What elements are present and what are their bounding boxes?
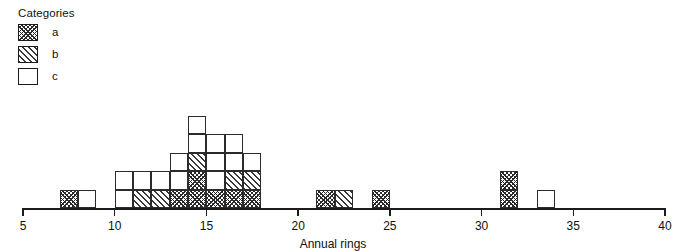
bar-cell-a xyxy=(188,190,206,209)
bar-cell-a xyxy=(206,190,224,209)
x-tick-label-5: 5 xyxy=(20,220,27,233)
x-tick-label-40: 40 xyxy=(658,220,671,233)
x-tick-25 xyxy=(389,208,390,216)
bar-cell-c xyxy=(115,171,133,190)
bar-cell-c xyxy=(225,153,243,172)
x-tick-10 xyxy=(114,208,115,216)
bar-cell-b xyxy=(225,171,243,190)
bar-cell-c xyxy=(188,116,206,135)
bar-cell-c xyxy=(170,171,188,190)
x-tick-label-30: 30 xyxy=(475,220,488,233)
plot-area: 510152025303540 Annual rings xyxy=(0,0,689,251)
bar-cell-c xyxy=(225,134,243,153)
bar-cell-a xyxy=(500,171,518,190)
bar-cell-a xyxy=(500,190,518,209)
x-tick-35 xyxy=(573,208,574,216)
bar-cell-b xyxy=(335,190,353,209)
bar-cell-a xyxy=(170,190,188,209)
bar-cell-c xyxy=(206,171,224,190)
bar-cell-a xyxy=(60,190,78,209)
bar-cell-b xyxy=(151,190,169,209)
x-tick-label-15: 15 xyxy=(200,220,213,233)
x-axis-label: Annual rings xyxy=(300,237,367,251)
bar-cell-c xyxy=(170,153,188,172)
x-tick-15 xyxy=(206,208,207,216)
x-tick-5 xyxy=(22,208,23,216)
bar-cell-b xyxy=(243,171,261,190)
bar-cell-b xyxy=(133,190,151,209)
bar-cell-c xyxy=(115,190,133,209)
x-tick-40 xyxy=(664,208,665,216)
bar-cell-c xyxy=(151,171,169,190)
bar-cell-c xyxy=(133,171,151,190)
bar-cell-c xyxy=(78,190,96,209)
bar-cell-c xyxy=(206,134,224,153)
bar-cell-c xyxy=(243,153,261,172)
x-tick-label-35: 35 xyxy=(567,220,580,233)
bar-cell-a xyxy=(243,190,261,209)
bar-cell-a xyxy=(372,190,390,209)
bar-cell-b xyxy=(188,153,206,172)
x-tick-20 xyxy=(297,208,298,216)
bar-cell-c xyxy=(206,153,224,172)
x-tick-label-20: 20 xyxy=(291,220,304,233)
bar-cell-c xyxy=(188,134,206,153)
x-tick-30 xyxy=(481,208,482,216)
x-tick-label-25: 25 xyxy=(383,220,396,233)
bar-cell-a xyxy=(188,171,206,190)
x-axis-line xyxy=(23,208,665,210)
bar-cell-c xyxy=(537,190,555,209)
bar-cell-a xyxy=(316,190,334,209)
x-tick-label-10: 10 xyxy=(108,220,121,233)
bar-cell-a xyxy=(225,190,243,209)
chart-figure: Categories a b c 510152025303540 Annual … xyxy=(0,0,689,251)
